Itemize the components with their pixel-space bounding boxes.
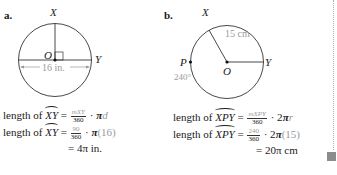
operator: · 2 — [268, 111, 283, 123]
equals-sign: = — [68, 142, 77, 154]
label-y-a: Y — [95, 52, 101, 66]
fraction-denominator: 360 — [247, 136, 260, 143]
arrow-right-icon — [86, 66, 90, 69]
operator: · — [87, 109, 96, 121]
fraction-denominator: 360 — [71, 117, 86, 124]
fraction: 240360 — [247, 128, 260, 143]
equation-b-3: = 20π cm — [256, 143, 298, 157]
value: (16) — [97, 126, 115, 138]
label-o-b: O — [223, 64, 231, 78]
arc-name: XY — [45, 108, 58, 122]
label-x-a: X — [50, 5, 57, 19]
circle-a-figure — [19, 24, 92, 97]
variable: r — [289, 111, 293, 123]
fraction: 90360 — [71, 126, 82, 141]
right-angle-marker — [55, 52, 63, 60]
eq-prefix: length of — [173, 128, 215, 140]
equation-b-1: length of XPY = mXPY360 · 2πr — [173, 110, 293, 126]
arc-name: XPY — [215, 110, 235, 124]
arc-name: XY — [45, 125, 58, 139]
point-p — [189, 60, 192, 63]
equals-sign: = — [235, 128, 247, 140]
eq-prefix: length of — [3, 126, 45, 138]
page-marker-square — [327, 152, 336, 161]
fraction: mXPY360 — [247, 111, 267, 126]
fraction-denominator: 360 — [71, 134, 82, 141]
fraction-denominator: 360 — [247, 119, 267, 126]
value: (15) — [282, 128, 300, 140]
equals-sign: = — [58, 126, 70, 138]
equation-b-2: length of XPY = 240360 · 2π(15) — [173, 127, 300, 143]
label-p-b: P — [180, 55, 187, 69]
equation-a-3: = 4π in. — [68, 141, 102, 155]
operator: · 2 — [261, 128, 276, 140]
label-y-b: Y — [265, 55, 271, 69]
equation-a-1: length of XY = mXY360 · πd — [3, 108, 108, 124]
eq-prefix: length of — [3, 109, 45, 121]
equals-sign: = — [235, 111, 247, 123]
arc-name: XPY — [215, 127, 235, 141]
equation-a-2: length of XY = 90360 · π(16) — [3, 125, 116, 141]
label-o-a: O — [44, 48, 52, 62]
radius-label: 15 cm — [225, 27, 250, 41]
result: 4π in. — [77, 142, 102, 154]
angle-label: 240° — [174, 70, 191, 84]
fraction: mXY360 — [71, 109, 86, 124]
arrow-left-icon — [20, 66, 24, 69]
eq-prefix: length of — [173, 111, 215, 123]
equals-sign: = — [256, 144, 265, 156]
label-x-b: X — [202, 5, 209, 19]
diameter-label: 16 in. — [42, 61, 65, 75]
dotted-margin-line — [333, 0, 334, 150]
result: 20π cm — [265, 144, 298, 156]
variable: d — [102, 109, 108, 121]
equals-sign: = — [58, 109, 70, 121]
